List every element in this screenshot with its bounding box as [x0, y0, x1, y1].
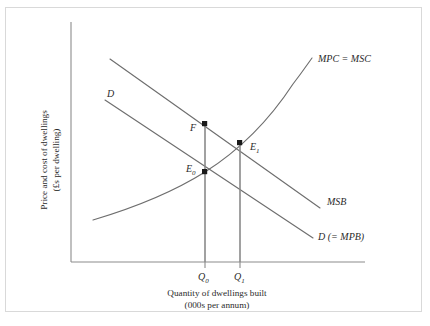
y-axis-title-line2: (£s per dwelling) [51, 129, 61, 192]
curve-mpb [105, 100, 313, 238]
curve-msb [110, 59, 320, 208]
diagram-canvas: MPC = MSC MSB D (= MPB) D F E0 E1 Q0 Q1 … [0, 0, 430, 326]
curve-mpc-msc [93, 58, 312, 220]
figure-root: MPC = MSC MSB D (= MPB) D F E0 E1 Q0 Q1 … [0, 0, 430, 326]
label-point-e0: E0 [185, 163, 196, 177]
x-axis-title-line1: Quantity of dwellings built [167, 288, 267, 298]
x-axis-title-line2: (000s per annum) [185, 300, 250, 310]
marker-point-f [202, 121, 207, 126]
x-tick-label-q1: Q1 [234, 271, 245, 285]
marker-point-e0 [202, 169, 207, 174]
label-point-e1: E1 [249, 141, 260, 155]
x-tick-label-q0: Q0 [198, 271, 209, 285]
label-d-upper: D [106, 88, 115, 99]
label-point-f: F [189, 122, 197, 133]
label-mpc-msc: MPC = MSC [317, 53, 371, 64]
label-mpb: D (= MPB) [317, 231, 365, 243]
label-msb: MSB [326, 196, 346, 207]
y-axis-title-line1: Price and cost of dwellings [39, 110, 49, 210]
marker-point-e1 [237, 140, 242, 145]
